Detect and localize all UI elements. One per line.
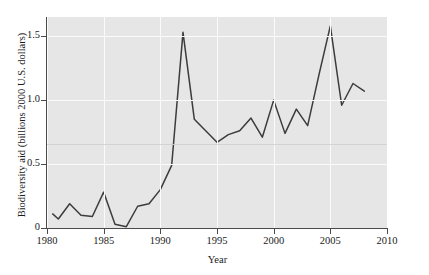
- gridline-vertical: [104, 17, 105, 228]
- x-tick-label: 1995: [197, 235, 237, 246]
- y-tick-label: 1.5: [4, 30, 40, 40]
- y-tick-label: 0: [4, 222, 40, 232]
- x-tick-mark: [104, 229, 105, 234]
- x-tick-mark: [217, 229, 218, 234]
- chart-figure: Biodiversity aid (billions 2000 U.S. dol…: [0, 0, 429, 275]
- x-tick-label: 1990: [140, 235, 180, 246]
- y-tick-label: 0.5: [4, 158, 40, 168]
- x-tick-label: 1980: [27, 235, 67, 246]
- y-tick-mark: [41, 36, 46, 37]
- x-tick-label: 2010: [367, 235, 407, 246]
- y-tick-mark: [41, 228, 46, 229]
- x-tick-mark: [160, 229, 161, 234]
- x-tick-label: 2000: [254, 235, 294, 246]
- x-tick-label: 1985: [84, 235, 124, 246]
- gridline-vertical: [160, 17, 161, 228]
- y-axis-line: [46, 17, 47, 229]
- y-tick-label: 1.0: [4, 94, 40, 104]
- gridline-vertical: [330, 17, 331, 228]
- x-tick-mark: [387, 229, 388, 234]
- x-axis-title: Year: [45, 254, 390, 265]
- gridline-vertical: [217, 17, 218, 228]
- y-axis-title: Biodiversity aid (billions 2000 U.S. dol…: [14, 10, 30, 240]
- gridline-vertical: [274, 17, 275, 228]
- plot-panel: [47, 17, 387, 228]
- gridline-vertical: [47, 17, 48, 228]
- x-tick-mark: [47, 229, 48, 234]
- series-polyline: [53, 26, 365, 227]
- y-tick-mark: [41, 100, 46, 101]
- x-tick-mark: [274, 229, 275, 234]
- x-tick-mark: [330, 229, 331, 234]
- y-tick-mark: [41, 164, 46, 165]
- scan-artifact-line: [47, 144, 387, 145]
- x-tick-label: 2005: [310, 235, 350, 246]
